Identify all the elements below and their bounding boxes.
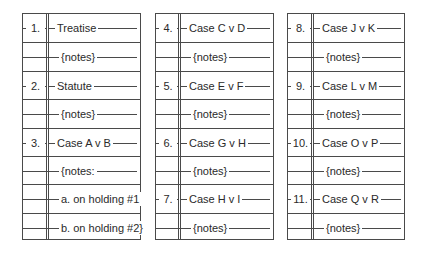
entry-number: 5. bbox=[159, 79, 177, 93]
entry-label: Statute bbox=[55, 79, 94, 93]
margin-tick bbox=[288, 57, 314, 58]
entry-number: 8. bbox=[291, 21, 310, 35]
entry-label: Case A v B bbox=[55, 136, 113, 150]
entry-number: 7. bbox=[159, 192, 177, 206]
outline-notes-row: {notes} bbox=[156, 156, 273, 184]
entry-number: 1. bbox=[26, 21, 45, 35]
entry-label: Case J v K bbox=[320, 21, 377, 35]
entry-label: Case C v D bbox=[187, 21, 247, 35]
margin-tick bbox=[156, 114, 181, 115]
entry-number: 9. bbox=[291, 79, 310, 93]
margin-tick bbox=[288, 171, 314, 172]
outline-notes-row: {notes: bbox=[23, 156, 140, 184]
entry-number: 6. bbox=[159, 136, 177, 150]
margin-tick bbox=[288, 114, 314, 115]
entry-label: Case H v I bbox=[187, 192, 242, 206]
outline-notes-row: {notes} bbox=[288, 42, 404, 70]
margin-tick bbox=[23, 57, 49, 58]
entry-label: Case Q v R bbox=[320, 192, 381, 206]
outline-entry-row: 6.Case G v H bbox=[156, 128, 273, 156]
notes-label: b. on holding #2} bbox=[59, 221, 145, 235]
entry-label: Treatise bbox=[55, 21, 98, 35]
margin-tick bbox=[156, 57, 181, 58]
margin-tick bbox=[156, 228, 181, 229]
outline-entry-row: 7.Case H v I bbox=[156, 184, 273, 212]
margin-tick bbox=[23, 171, 49, 172]
notes-label: {notes} bbox=[324, 221, 362, 235]
outline-notes-row: {notes} bbox=[23, 42, 140, 70]
outline-notes-row: {notes} bbox=[23, 99, 140, 127]
outline-entry-row: 4.Case C v D bbox=[156, 14, 273, 42]
notes-label: {notes} bbox=[324, 164, 362, 178]
entry-label: Case G v H bbox=[187, 136, 248, 150]
outline-entry-row: 2.Statute bbox=[23, 71, 140, 99]
margin-tick bbox=[156, 171, 181, 172]
notes-label: a. on holding #1 bbox=[59, 192, 141, 206]
outline-panel-2: 4.Case C v D{notes}5.Case E v F{notes}6.… bbox=[155, 13, 274, 240]
entry-number: 10. bbox=[291, 136, 310, 150]
entry-number: 3. bbox=[26, 136, 45, 150]
outline-entry-row: 10.Case O v P bbox=[288, 128, 404, 156]
margin-tick bbox=[288, 228, 314, 229]
entry-label: Case L v M bbox=[320, 79, 379, 93]
outline-notes-row: {notes} bbox=[156, 42, 273, 70]
margin-tick bbox=[23, 199, 49, 200]
entry-number: 2. bbox=[26, 79, 45, 93]
notes-label: {notes} bbox=[324, 50, 362, 64]
outline-entry-row: 5.Case E v F bbox=[156, 71, 273, 99]
outline-entry-row: 3.Case A v B bbox=[23, 128, 140, 156]
notes-label: {notes: bbox=[59, 164, 97, 178]
entry-number: 11. bbox=[291, 192, 310, 206]
outline-entry-row: 1.Treatise bbox=[23, 14, 140, 42]
notes-label: {notes} bbox=[191, 221, 229, 235]
outline-panel-3: 8.Case J v K{notes}9.Case L v M{notes}10… bbox=[287, 13, 405, 240]
notes-label: {notes} bbox=[59, 107, 97, 121]
entry-number: 4. bbox=[159, 21, 177, 35]
outline-notes-row: {notes} bbox=[288, 213, 404, 241]
entry-label: Case O v P bbox=[320, 136, 380, 150]
outline-notes-row: {notes} bbox=[288, 156, 404, 184]
notes-label: {notes} bbox=[59, 50, 97, 64]
outline-notes-row: {notes} bbox=[156, 213, 273, 241]
margin-tick bbox=[23, 114, 49, 115]
notes-label: {notes} bbox=[191, 50, 229, 64]
notes-label: {notes} bbox=[191, 164, 229, 178]
outline-notes-row: b. on holding #2} bbox=[23, 213, 140, 241]
margin-tick bbox=[23, 228, 49, 229]
outline-entry-row: 9.Case L v M bbox=[288, 71, 404, 99]
outline-notes-row: {notes} bbox=[156, 99, 273, 127]
notes-label: {notes} bbox=[324, 107, 362, 121]
outline-notes-row: {notes} bbox=[288, 99, 404, 127]
entry-label: Case E v F bbox=[187, 79, 245, 93]
outline-entry-row: 11.Case Q v R bbox=[288, 184, 404, 212]
outline-entry-row: 8.Case J v K bbox=[288, 14, 404, 42]
outline-panel-1: 1.Treatise{notes}2.Statute{notes}3.Case … bbox=[22, 13, 141, 240]
outline-notes-row: a. on holding #1 bbox=[23, 184, 140, 212]
notes-label: {notes} bbox=[191, 107, 229, 121]
